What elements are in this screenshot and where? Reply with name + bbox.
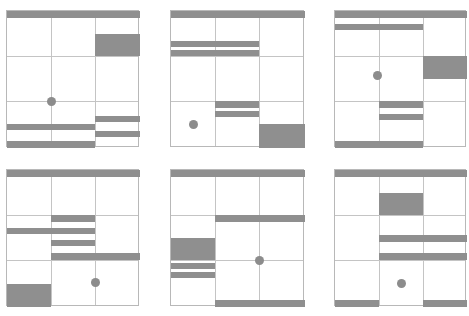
grid-panel-2 [170, 10, 304, 147]
grid-line-horizontal [335, 215, 465, 216]
gray-bar [379, 114, 423, 120]
grid-line-horizontal [335, 260, 465, 261]
dot-marker [47, 97, 56, 106]
grid-line-vertical [259, 170, 260, 305]
gray-bar [51, 215, 95, 222]
gray-bar [51, 253, 140, 260]
gray-bar [7, 170, 140, 177]
gray-bar [51, 240, 95, 246]
grid-line-horizontal [7, 56, 138, 57]
dot-marker [397, 279, 406, 288]
grid-panel-1 [6, 10, 139, 147]
gray-bar [215, 111, 259, 117]
gray-bar [171, 170, 305, 177]
gray-bar [7, 228, 95, 234]
grid-panel-3 [334, 10, 466, 147]
gray-block [259, 124, 305, 148]
grid-panel-6 [334, 169, 466, 306]
gray-bar [379, 235, 467, 242]
grid-panel-5 [170, 169, 304, 306]
gray-block [423, 56, 467, 79]
grid-line-horizontal [171, 56, 303, 57]
gray-block [171, 238, 215, 260]
gray-bar [7, 124, 95, 130]
gray-bar [215, 215, 305, 222]
dot-marker [189, 120, 198, 129]
dot-marker [255, 256, 264, 265]
grid-line-vertical [215, 11, 216, 146]
gray-bar [171, 11, 305, 18]
grid-panel-4 [6, 169, 139, 306]
gray-block [95, 34, 140, 56]
gray-bar [379, 101, 423, 108]
gray-bar [379, 253, 467, 260]
dot-marker [373, 71, 382, 80]
gray-block [7, 284, 51, 307]
gray-bar [171, 263, 215, 269]
gray-bar [7, 141, 95, 148]
grid-line-vertical [215, 170, 216, 305]
grid-line-horizontal [171, 260, 303, 261]
gray-bar [335, 11, 467, 18]
gray-bar [171, 41, 259, 47]
gray-bar [171, 50, 259, 56]
gray-bar [335, 170, 467, 177]
gray-bar [423, 300, 467, 307]
grid-line-horizontal [7, 101, 138, 102]
grid-line-vertical [51, 170, 52, 305]
gray-bar [171, 272, 215, 278]
gray-bar [335, 141, 423, 148]
gray-bar [335, 300, 379, 307]
grid-line-horizontal [7, 260, 138, 261]
gray-bar [215, 300, 305, 307]
grid-line-vertical [95, 11, 96, 146]
gray-block [379, 193, 423, 215]
gray-bar [7, 11, 140, 18]
gray-bar [215, 101, 259, 108]
gray-bar [95, 131, 140, 137]
gray-bar [335, 24, 423, 30]
gray-bar [95, 116, 140, 122]
dot-marker [91, 278, 100, 287]
